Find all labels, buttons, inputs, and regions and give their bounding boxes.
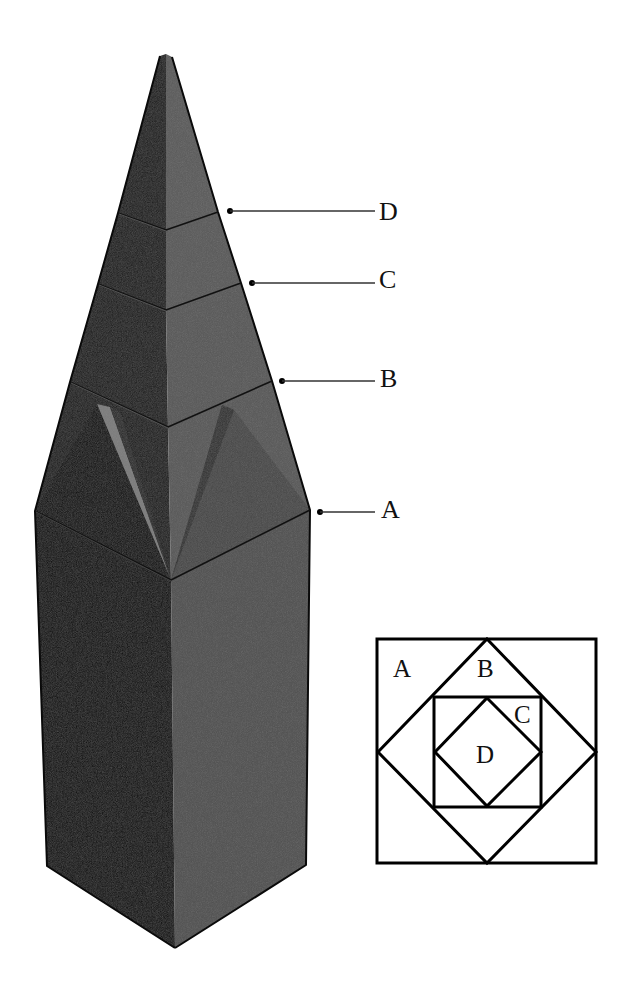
callout-a: A: [317, 495, 400, 524]
callout-b: B: [279, 364, 397, 393]
spire: [70, 54, 272, 427]
plan-label-c: C: [514, 701, 531, 728]
callout-d: D: [227, 197, 398, 226]
spire-tip-left: [118, 54, 166, 230]
callout-label-d: D: [379, 197, 398, 226]
plan-label-b: B: [477, 655, 494, 682]
shaft-right-face: [171, 510, 310, 948]
plan-label-d: D: [476, 741, 494, 768]
callout-label-c: C: [379, 265, 396, 294]
plan-label-a: A: [393, 655, 411, 682]
callout-label-b: B: [380, 364, 397, 393]
callout-c: C: [249, 265, 396, 294]
spire-tip-right: [166, 54, 218, 230]
shaft-left-face: [35, 511, 175, 948]
spire-diagram: D C B A A B C D: [0, 0, 635, 1001]
plan-inset-labels: A B C D: [393, 655, 531, 768]
callout-label-a: A: [381, 495, 400, 524]
